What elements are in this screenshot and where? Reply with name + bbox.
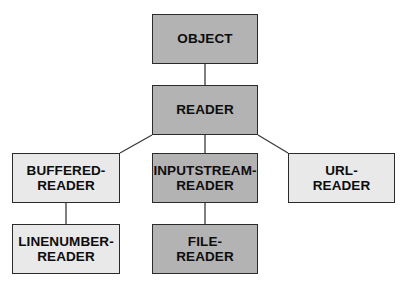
node-label-buffered-reader: BUFFERED- READER xyxy=(25,163,108,194)
node-linenumber-reader[interactable]: LINENUMBER- READER xyxy=(12,224,120,274)
node-label-linenumber-reader: LINENUMBER- READER xyxy=(16,234,116,265)
node-buffered-reader[interactable]: BUFFERED- READER xyxy=(12,153,120,203)
node-label-object: OBJECT xyxy=(175,31,234,47)
class-hierarchy-diagram: OBJECTREADERBUFFERED- READERINPUTSTREAM-… xyxy=(0,0,408,287)
node-label-reader: READER xyxy=(174,102,236,118)
node-label-file-reader: FILE- READER xyxy=(174,234,236,265)
node-label-url-reader: URL- READER xyxy=(311,163,373,194)
node-object[interactable]: OBJECT xyxy=(152,14,258,64)
node-file-reader[interactable]: FILE- READER xyxy=(152,224,258,274)
node-url-reader[interactable]: URL- READER xyxy=(288,153,395,203)
node-inputstream-reader[interactable]: INPUTSTREAM- READER xyxy=(152,153,258,203)
node-reader[interactable]: READER xyxy=(152,85,258,135)
connector-reader-url xyxy=(258,135,288,153)
node-label-inputstream-reader: INPUTSTREAM- READER xyxy=(151,163,258,194)
connector-reader-buffered xyxy=(120,135,152,153)
